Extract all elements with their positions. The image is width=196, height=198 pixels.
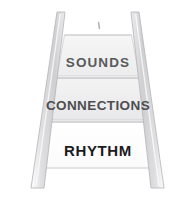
step-label-rhythm: RHYTHM — [0, 143, 196, 158]
ladder-diagram: SOUNDS CONNECTIONS RHYTHM — [0, 0, 196, 198]
step-label-sounds: SOUNDS — [0, 56, 196, 70]
top-speck-icon — [99, 23, 100, 29]
step-label-connections: CONNECTIONS — [0, 99, 196, 113]
